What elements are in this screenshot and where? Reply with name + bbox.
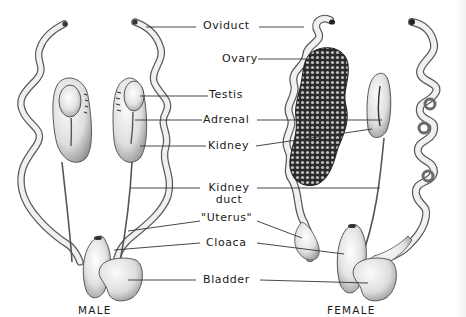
female-coiled-oviduct xyxy=(365,19,436,270)
caption-male: MALE xyxy=(78,304,112,316)
label-adrenal: Adrenal xyxy=(203,114,249,126)
label-oviduct: Oviduct xyxy=(203,20,250,32)
label-uterus: "Uterus" xyxy=(201,212,252,224)
female-system xyxy=(286,19,436,301)
label-cloaca: Cloaca xyxy=(206,237,247,249)
label-testis: Testis xyxy=(209,89,243,101)
uterus-leader-right xyxy=(257,221,302,238)
male-bladder xyxy=(99,258,142,301)
female-kidney xyxy=(367,73,391,137)
female-bladder xyxy=(353,258,396,301)
label-bladder: Bladder xyxy=(203,274,250,286)
page-edge-shadow xyxy=(456,0,466,317)
label-kidney: Kidney xyxy=(208,140,249,152)
uterus-leader-left xyxy=(128,221,200,231)
label-kidney-duct-line2: duct xyxy=(203,194,255,206)
male-system xyxy=(21,19,170,300)
label-ovary: Ovary xyxy=(222,53,258,65)
diagram-canvas: Oviduct Ovary Testis Adrenal Kidney Kidn… xyxy=(0,0,466,317)
anatomy-illustration xyxy=(0,0,466,317)
caption-female: FEMALE xyxy=(327,304,376,316)
